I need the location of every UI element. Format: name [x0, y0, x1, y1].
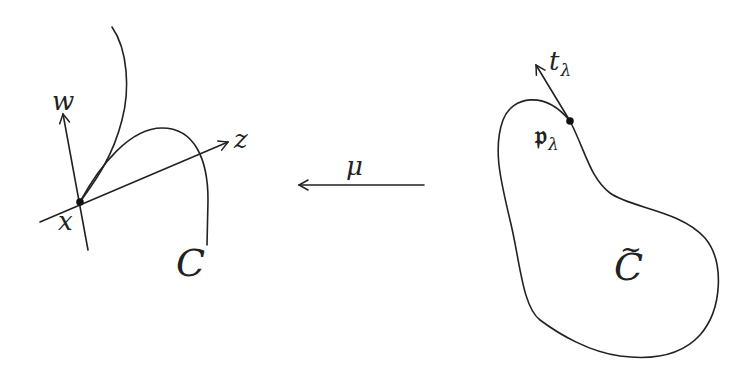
point-p-lambda: [566, 117, 574, 125]
label-p: 𝔭: [535, 120, 547, 150]
curve-c-tilde: [498, 100, 718, 358]
label-w: w: [52, 88, 74, 114]
tilde-accent: ~: [620, 236, 642, 262]
label-t-subscript: λ: [560, 60, 571, 80]
label-x: x: [58, 208, 73, 234]
label-z: z: [234, 126, 248, 152]
curve-c-loop-branch: [80, 128, 208, 245]
curve-c-upper-branch: [80, 27, 127, 202]
label-t-lambda: tλ: [549, 48, 571, 74]
label-curve-c: C: [176, 244, 205, 282]
label-mu: μ: [346, 153, 363, 179]
label-p-lambda: 𝔭λ: [535, 122, 559, 148]
diagram-canvas: [0, 0, 756, 374]
point-x: [76, 198, 84, 206]
right-figure: [498, 65, 718, 358]
label-curve-c-tilde: ~ C: [614, 248, 643, 286]
label-p-subscript: λ: [548, 134, 559, 154]
label-t: t: [549, 46, 559, 76]
